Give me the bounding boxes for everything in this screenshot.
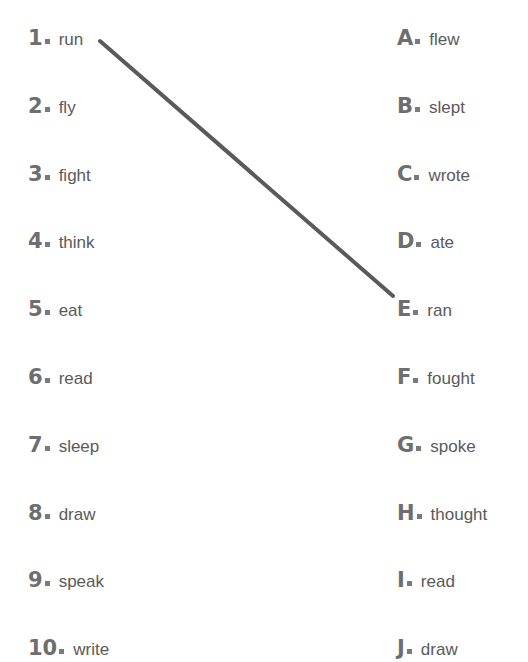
past-verb-marker: G (397, 435, 421, 456)
marker-period-icon (45, 310, 50, 315)
base-verb-word[interactable]: fight (59, 167, 91, 184)
base-verb-word[interactable]: read (59, 370, 93, 387)
match-row[interactable]: 8draw (28, 503, 95, 524)
base-verb-word[interactable]: speak (59, 573, 104, 590)
past-verb-word[interactable]: slept (429, 99, 465, 116)
past-verb-marker: E (397, 299, 418, 320)
match-row[interactable]: 10write (28, 638, 109, 659)
past-verb-word[interactable]: wrote (428, 167, 470, 184)
marker-period-icon (413, 310, 418, 315)
match-row[interactable]: Date (397, 231, 454, 252)
marker-period-icon (45, 107, 50, 112)
base-verb-word[interactable]: draw (59, 506, 96, 523)
match-row[interactable]: 3fight (28, 164, 91, 185)
right-column-past-verbs: AflewBsleptCwroteDateEranFfoughtGspokeHt… (380, 0, 528, 662)
match-row[interactable]: 1run (28, 28, 83, 49)
match-row[interactable]: Iread (397, 570, 455, 591)
match-row[interactable]: 5eat (28, 299, 82, 320)
past-verb-marker: D (397, 231, 421, 252)
past-verb-marker: H (397, 503, 422, 524)
marker-period-icon (416, 446, 421, 451)
marker-period-icon (45, 175, 50, 180)
base-verb-word[interactable]: write (73, 641, 109, 658)
marker-period-icon (45, 39, 50, 44)
base-verb-marker: 8 (28, 503, 50, 524)
past-verb-word[interactable]: spoke (430, 438, 475, 455)
past-verb-marker: I (397, 570, 412, 591)
match-row[interactable]: Eran (397, 299, 452, 320)
base-verb-word[interactable]: think (59, 234, 95, 251)
marker-period-icon (415, 39, 420, 44)
left-column-base-verbs: 1run2fly3fight4think5eat6read7sleep8draw… (0, 0, 300, 662)
marker-period-icon (416, 242, 421, 247)
base-verb-marker: 1 (28, 28, 50, 49)
past-verb-word[interactable]: flew (429, 31, 459, 48)
base-verb-word[interactable]: fly (59, 99, 76, 116)
marker-period-icon (45, 514, 50, 519)
marker-period-icon (417, 514, 422, 519)
marker-period-icon (415, 107, 420, 112)
past-verb-marker: C (397, 164, 419, 185)
base-verb-marker: 5 (28, 299, 50, 320)
marker-period-icon (414, 175, 419, 180)
past-verb-word[interactable]: ate (430, 234, 454, 251)
match-row[interactable]: 9speak (28, 570, 104, 591)
past-verb-marker: J (397, 638, 412, 659)
past-verb-word[interactable]: thought (431, 506, 488, 523)
matching-exercise-worksheet: 1run2fly3fight4think5eat6read7sleep8draw… (0, 0, 528, 662)
marker-period-icon (407, 649, 412, 654)
past-verb-marker: A (397, 28, 420, 49)
base-verb-marker: 2 (28, 96, 50, 117)
base-verb-marker: 7 (28, 435, 50, 456)
past-verb-word[interactable]: ran (427, 302, 452, 319)
past-verb-word[interactable]: read (421, 573, 455, 590)
marker-period-icon (45, 378, 50, 383)
marker-period-icon (407, 581, 412, 586)
marker-period-icon (45, 581, 50, 586)
base-verb-marker: 10 (28, 638, 64, 659)
past-verb-word[interactable]: fought (427, 370, 474, 387)
base-verb-marker: 3 (28, 164, 50, 185)
match-row[interactable]: Ffought (397, 367, 475, 388)
marker-period-icon (413, 378, 418, 383)
marker-period-icon (59, 649, 64, 654)
base-verb-word[interactable]: eat (59, 302, 83, 319)
past-verb-marker: B (397, 96, 420, 117)
base-verb-word[interactable]: run (59, 31, 84, 48)
base-verb-marker: 6 (28, 367, 50, 388)
match-row[interactable]: Cwrote (397, 164, 470, 185)
match-row[interactable]: 2fly (28, 96, 76, 117)
match-row[interactable]: Bslept (397, 96, 465, 117)
match-row[interactable]: Aflew (397, 28, 460, 49)
past-verb-word[interactable]: draw (421, 641, 458, 658)
base-verb-marker: 4 (28, 231, 50, 252)
base-verb-word[interactable]: sleep (59, 438, 100, 455)
marker-period-icon (45, 446, 50, 451)
match-row[interactable]: Gspoke (397, 435, 476, 456)
match-row[interactable]: 7sleep (28, 435, 99, 456)
match-row[interactable]: Jdraw (397, 638, 458, 659)
match-row[interactable]: 4think (28, 231, 95, 252)
marker-period-icon (45, 242, 50, 247)
past-verb-marker: F (397, 367, 418, 388)
match-row[interactable]: Hthought (397, 503, 487, 524)
base-verb-marker: 9 (28, 570, 50, 591)
match-row[interactable]: 6read (28, 367, 93, 388)
